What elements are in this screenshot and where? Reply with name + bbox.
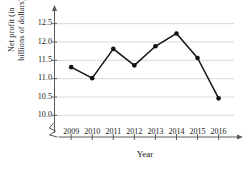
axes-layer xyxy=(0,0,250,171)
x-axis-title: Year xyxy=(56,149,234,159)
y-axis-arrow xyxy=(52,5,57,11)
x-axis-tick-labels: 20092010201120122013201420152016 xyxy=(56,128,241,142)
line-chart: Net profit (in billions of dollars) 12.5… xyxy=(0,0,250,171)
x-tick-label-2016: 2016 xyxy=(207,128,231,136)
